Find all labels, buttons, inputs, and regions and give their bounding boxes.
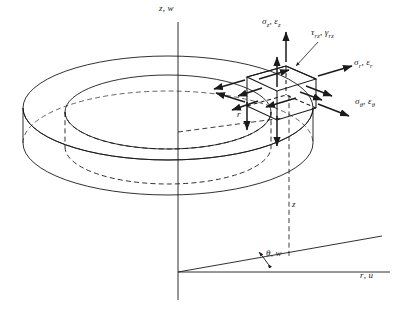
z-axis-label: z, w [159,4,174,13]
sigma-r-epsilon-r-label: σr, εr [354,58,373,69]
ring-outer-top-ellipse [23,56,313,160]
arrow-tau-rz-left-diag [232,101,258,110]
sigma-z-epsilon-z-label: σz, εz [262,17,281,28]
sigma-theta-epsilon-theta-label: σθ, εθ [355,97,375,108]
ring-solid [23,56,313,195]
theta-angle-label: θ, w [266,249,282,258]
tau-leader-line [296,42,318,66]
ring-outer-bottom-front [23,108,313,160]
figure-canvas [0,0,398,309]
arrow-sigma-r-right [318,66,352,76]
arrow-tau-rz-top [259,70,289,79]
cube-bottom-face [247,106,316,120]
r-axis-label: r, u [360,271,373,280]
radius-dimension-line [178,118,283,132]
radius-label: r [237,110,241,119]
ring-inner-bottom-ellipse-hidden [65,147,271,184]
arrow-sigma-r-left [214,80,245,89]
axisymmetric-ring-figure: z, w r, u θ, w r z σz, εz τrz, γrz σr, ε… [0,0,398,309]
arrow-tau-rz-right-diag [306,86,332,96]
tau-rz-gamma-rz-label: τrz, γrz [311,28,334,39]
cube-front-face [247,66,316,91]
height-label: z [292,200,296,209]
arrow-sigma-theta-outward [318,104,349,116]
ring-outer-bottom-ellipse-front [23,143,313,195]
